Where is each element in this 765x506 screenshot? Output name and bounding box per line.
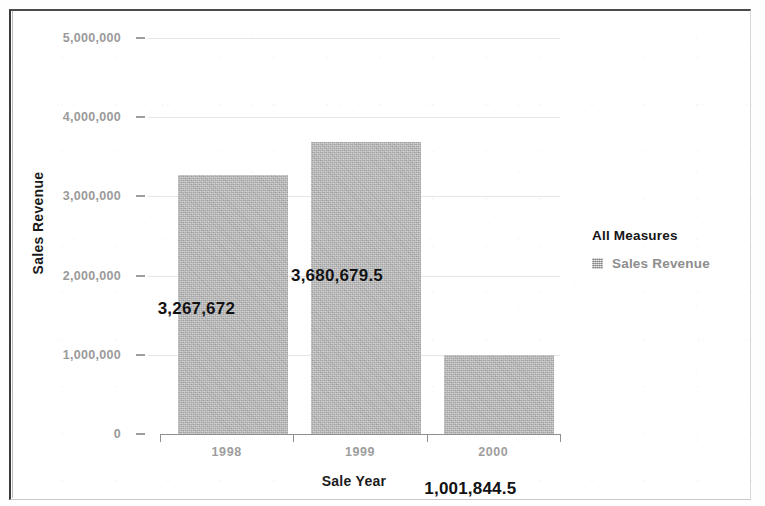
- plot-area: 01,000,0002,000,0003,000,0004,000,0005,0…: [148, 30, 560, 434]
- y-axis-tick-label: 1,000,000: [1, 349, 121, 362]
- y-axis-tick-label: 3,000,000: [1, 190, 121, 203]
- y-axis-tick-label: 5,000,000: [1, 32, 121, 45]
- y-axis-tick-label: 0: [1, 428, 121, 441]
- gridline: [148, 38, 560, 39]
- x-axis-title: Sale Year: [148, 473, 560, 489]
- x-axis-line: [160, 434, 560, 435]
- x-axis-tick-label: 1998: [160, 446, 293, 459]
- y-axis-tick-mark: [136, 275, 145, 277]
- x-axis-tick-mark: [160, 434, 161, 442]
- bar[interactable]: [444, 355, 554, 434]
- y-axis-tick-mark: [136, 116, 145, 118]
- y-axis-tick-mark: [136, 37, 145, 39]
- bar-value-label: 3,267,672: [158, 300, 235, 317]
- y-axis-tick-mark: [136, 433, 145, 435]
- y-axis-tick-label: 4,000,000: [1, 111, 121, 124]
- bar[interactable]: [311, 142, 421, 434]
- legend-swatch-icon: [592, 258, 603, 269]
- y-axis-tick-mark: [136, 195, 145, 197]
- x-axis-tick-mark: [427, 434, 428, 442]
- bar-value-label: 3,680,679.5: [291, 267, 383, 284]
- legend-item[interactable]: Sales Revenue: [592, 256, 760, 271]
- legend-title: All Measures: [592, 228, 760, 243]
- legend: All Measures Sales Revenue: [592, 228, 760, 271]
- x-axis-tick-mark: [560, 434, 561, 442]
- legend-item-label: Sales Revenue: [612, 256, 710, 271]
- y-axis-tick-mark: [136, 354, 145, 356]
- x-axis-tick-label: 1999: [293, 446, 426, 459]
- gridline: [148, 117, 560, 118]
- x-axis-tick-label: 2000: [427, 446, 560, 459]
- scanned-page: Sales Revenue 01,000,0002,000,0003,000,0…: [0, 0, 765, 506]
- bar-chart: Sales Revenue 01,000,0002,000,0003,000,0…: [0, 0, 765, 506]
- legend-items: Sales Revenue: [592, 256, 760, 271]
- y-axis-tick-label: 2,000,000: [1, 270, 121, 283]
- x-axis-tick-mark: [293, 434, 294, 442]
